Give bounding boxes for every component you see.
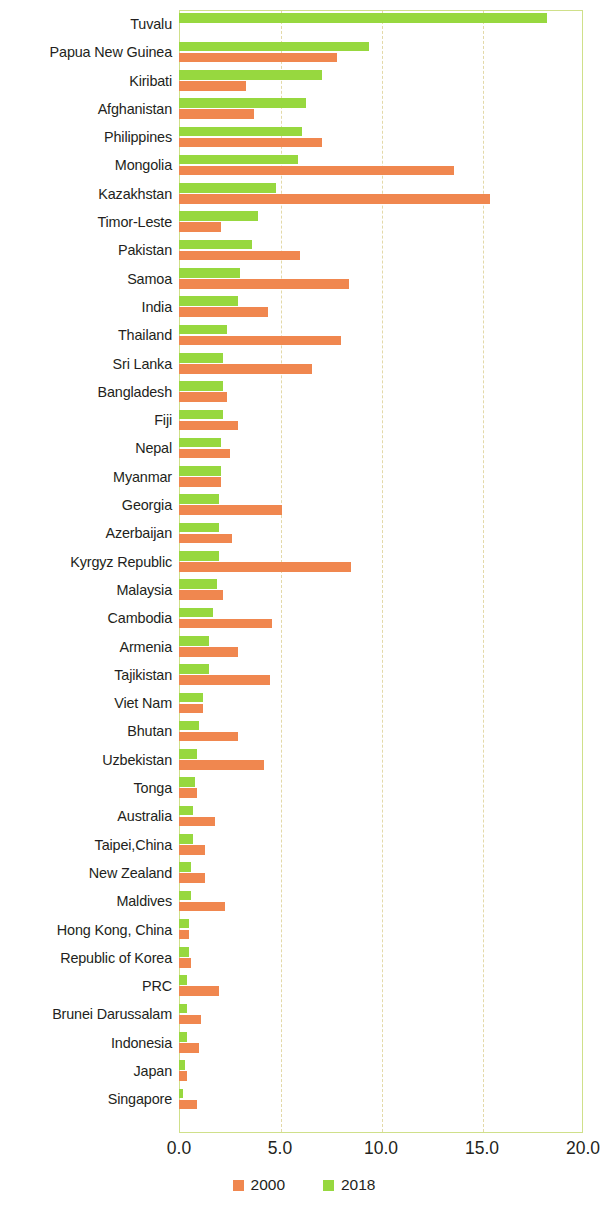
category-label: Indonesia xyxy=(0,1029,172,1057)
bar-2000 xyxy=(179,251,300,261)
bar-group xyxy=(179,944,583,972)
bar-2018 xyxy=(179,636,209,646)
chart-row: Kiribati xyxy=(0,67,608,95)
category-label: Republic of Korea xyxy=(0,944,172,972)
bar-2018 xyxy=(179,523,219,533)
bar-group xyxy=(179,434,583,462)
bar-2000 xyxy=(179,81,246,91)
bar-group xyxy=(179,859,583,887)
bar-group xyxy=(179,746,583,774)
bar-2018 xyxy=(179,1060,185,1070)
chart-row: Tonga xyxy=(0,774,608,802)
bar-2018 xyxy=(179,438,221,448)
bar-2018 xyxy=(179,183,276,193)
bar-2000 xyxy=(179,902,225,912)
category-label: Australia xyxy=(0,802,172,830)
bar-2018 xyxy=(179,1089,183,1099)
chart-row: Fiji xyxy=(0,406,608,434)
bar-2018 xyxy=(179,155,298,165)
bar-2018 xyxy=(179,70,322,80)
bar-group xyxy=(179,887,583,915)
bar-2018 xyxy=(179,862,191,872)
chart-row: Maldives xyxy=(0,887,608,915)
category-label: Viet Nam xyxy=(0,689,172,717)
chart-row: Timor-Leste xyxy=(0,208,608,236)
bar-group xyxy=(179,548,583,576)
category-label: Kazakhstan xyxy=(0,180,172,208)
bar-2018 xyxy=(179,98,306,108)
chart-row: Bhutan xyxy=(0,717,608,745)
x-tick-label: 5.0 xyxy=(268,1138,292,1159)
bar-group xyxy=(179,350,583,378)
chart-row: Afghanistan xyxy=(0,95,608,123)
bar-2018 xyxy=(179,1032,187,1042)
bar-2018 xyxy=(179,834,193,844)
bar-2000 xyxy=(179,534,232,544)
chart-row: PRC xyxy=(0,972,608,1000)
category-label: Brunei Darussalam xyxy=(0,1000,172,1028)
bar-2000 xyxy=(179,138,322,148)
bar-2000 xyxy=(179,788,197,798)
chart-row: Australia xyxy=(0,802,608,830)
x-tick-label: 0.0 xyxy=(167,1138,191,1159)
bar-2000 xyxy=(179,590,223,600)
category-label: Myanmar xyxy=(0,463,172,491)
bar-2000 xyxy=(179,873,205,883)
legend-swatch-icon xyxy=(233,1180,244,1191)
chart-row: Bangladesh xyxy=(0,378,608,406)
bar-2018 xyxy=(179,240,252,250)
bar-2000 xyxy=(179,336,341,346)
bar-2000 xyxy=(179,958,191,968)
bar-2018 xyxy=(179,777,195,787)
bar-group xyxy=(179,661,583,689)
chart-row: New Zealand xyxy=(0,859,608,887)
bar-group xyxy=(179,123,583,151)
bar-group xyxy=(179,831,583,859)
chart-row: Kazakhstan xyxy=(0,180,608,208)
chart-row: Azerbaijan xyxy=(0,519,608,547)
bar-group xyxy=(179,293,583,321)
bar-group xyxy=(179,633,583,661)
chart-row: Singapore xyxy=(0,1085,608,1113)
chart-row: Kyrgyz Republic xyxy=(0,548,608,576)
bar-2000 xyxy=(179,279,349,289)
legend-item[interactable]: 2000 xyxy=(233,1176,285,1194)
legend-item[interactable]: 2018 xyxy=(323,1176,375,1194)
bar-group xyxy=(179,576,583,604)
chart-row: Sri Lanka xyxy=(0,350,608,378)
category-label: PRC xyxy=(0,972,172,1000)
bar-group xyxy=(179,916,583,944)
bar-group xyxy=(179,1000,583,1028)
x-axis: 0.05.010.015.020.0 xyxy=(0,1138,608,1166)
chart-row: India xyxy=(0,293,608,321)
category-label: Maldives xyxy=(0,887,172,915)
bar-group xyxy=(179,180,583,208)
category-label: Afghanistan xyxy=(0,95,172,123)
bar-group xyxy=(179,67,583,95)
category-label: Papua New Guinea xyxy=(0,38,172,66)
bar-2000 xyxy=(179,166,454,176)
category-label: New Zealand xyxy=(0,859,172,887)
bar-group xyxy=(179,1057,583,1085)
bar-2018 xyxy=(179,211,258,221)
category-label: Mongolia xyxy=(0,151,172,179)
chart-row: Republic of Korea xyxy=(0,944,608,972)
bar-2018 xyxy=(179,664,209,674)
chart-row: Tuvalu xyxy=(0,10,608,38)
chart-row: Taipei,China xyxy=(0,831,608,859)
bar-2000 xyxy=(179,986,219,996)
chart-row: Samoa xyxy=(0,265,608,293)
bar-2018 xyxy=(179,608,213,618)
bar-2000 xyxy=(179,562,351,572)
category-label: Kyrgyz Republic xyxy=(0,548,172,576)
category-label: Japan xyxy=(0,1057,172,1085)
bar-group xyxy=(179,1085,583,1113)
bar-group xyxy=(179,265,583,293)
category-label: Tajikistan xyxy=(0,661,172,689)
category-label: Malaysia xyxy=(0,576,172,604)
category-label: Kiribati xyxy=(0,67,172,95)
legend-swatch-icon xyxy=(323,1180,334,1191)
chart-row: Malaysia xyxy=(0,576,608,604)
bar-2000 xyxy=(179,1100,197,1110)
bar-2000 xyxy=(179,109,254,119)
